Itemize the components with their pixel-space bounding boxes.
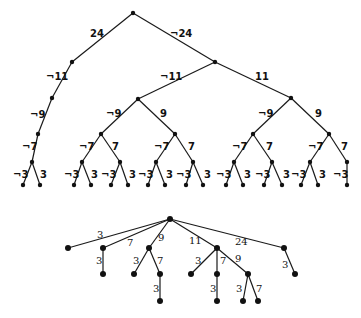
tree-node bbox=[245, 271, 251, 277]
edge-label: 7 bbox=[220, 255, 226, 266]
tree-node bbox=[157, 298, 163, 304]
diagram-canvas: 24¬24¬11¬9¬7¬33¬1111¬99¬77¬33¬33¬77¬33¬3… bbox=[0, 0, 361, 318]
tree-node bbox=[214, 245, 220, 251]
edge-label: 3 bbox=[195, 255, 201, 266]
tree-node bbox=[100, 245, 106, 251]
tree-node bbox=[255, 298, 261, 304]
edge-label: 3 bbox=[133, 255, 139, 266]
tree-node bbox=[292, 271, 298, 277]
tree-node bbox=[157, 271, 163, 277]
edge-label: 3 bbox=[210, 283, 216, 294]
tree-node bbox=[131, 271, 137, 277]
edge-label: 24 bbox=[235, 236, 248, 247]
tree-node bbox=[214, 298, 220, 304]
tree-edge bbox=[243, 274, 248, 301]
edge-label: 7 bbox=[127, 237, 133, 248]
tree-node bbox=[281, 245, 287, 251]
tree-node bbox=[100, 271, 106, 277]
edge-label: 3 bbox=[96, 255, 102, 266]
edge-label: 3 bbox=[236, 283, 242, 294]
edge-label: 7 bbox=[256, 283, 262, 294]
tree-edge bbox=[170, 219, 284, 248]
edge-label: 11 bbox=[189, 235, 202, 246]
tree-node bbox=[146, 245, 152, 251]
edge-label: 7 bbox=[157, 255, 163, 266]
edge-label: 3 bbox=[282, 259, 288, 270]
edge-label: 9 bbox=[235, 253, 241, 264]
tree-edge bbox=[68, 219, 170, 248]
tree-node bbox=[65, 245, 71, 251]
tree-node bbox=[214, 271, 220, 277]
tree-node bbox=[188, 271, 194, 277]
bottom-compact-tree: 379112433733793373 bbox=[0, 0, 361, 318]
edge-label: 3 bbox=[153, 283, 159, 294]
edge-label: 3 bbox=[97, 229, 103, 240]
tree-node bbox=[167, 216, 173, 222]
tree-node bbox=[240, 298, 246, 304]
edge-label: 9 bbox=[158, 232, 164, 243]
